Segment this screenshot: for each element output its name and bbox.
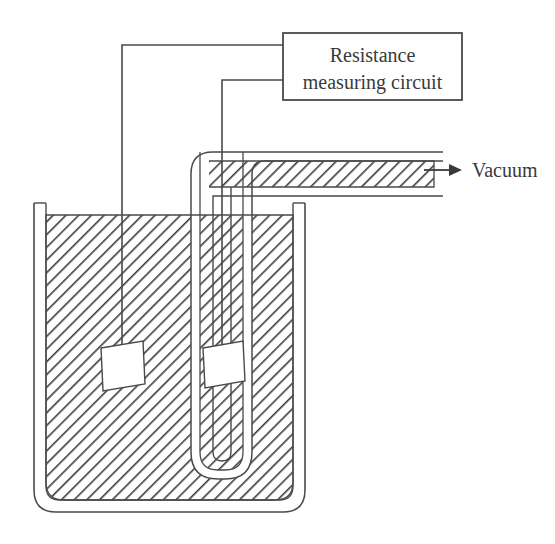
vacuum-label: Vacuum xyxy=(472,159,538,181)
right-sensor xyxy=(203,341,245,388)
instrument-box[interactable]: Resistance measuring circuit xyxy=(283,33,462,100)
diagram-canvas: Resistance measuring circuit Vacuum xyxy=(0,0,555,544)
apparatus-schematic: Resistance measuring circuit Vacuum xyxy=(0,0,555,544)
instrument-box-label-line2: measuring circuit xyxy=(303,71,443,94)
hatched-medium xyxy=(40,205,302,510)
instrument-box-label-line1: Resistance xyxy=(330,44,416,66)
left-sensor xyxy=(101,341,145,391)
